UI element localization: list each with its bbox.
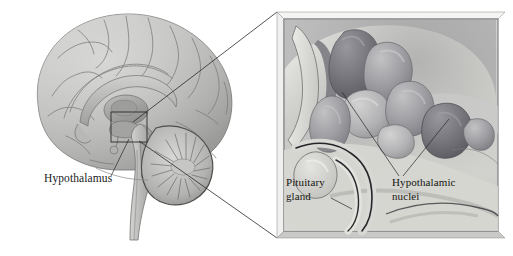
label-pituitary-gland-line1: Pituitary bbox=[286, 176, 325, 188]
anatomy-figure: Hypothalamus bbox=[0, 0, 513, 256]
brain-overview bbox=[37, 14, 232, 240]
panel-bevel-top bbox=[277, 12, 505, 19]
figure-canvas: Hypothalamus bbox=[0, 0, 513, 256]
panel-bevel-left bbox=[277, 12, 284, 238]
label-hypothalamic-nuclei-line1: Hypothalamic bbox=[392, 176, 456, 188]
magnified-hypothalamus-panel: Pituitary gland Hypothalamic nuclei bbox=[277, 12, 505, 238]
panel-bevel-bottom bbox=[277, 231, 505, 238]
label-hypothalamic-nuclei-line2: nuclei bbox=[392, 190, 419, 202]
label-pituitary-gland-line2: gland bbox=[286, 190, 311, 202]
label-hypothalamus: Hypothalamus bbox=[44, 172, 113, 185]
